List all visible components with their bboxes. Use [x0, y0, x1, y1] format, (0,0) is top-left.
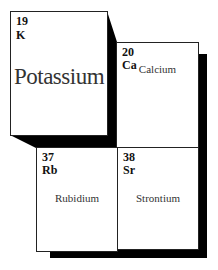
element-cell-strontium[interactable]: 38 Sr Strontium	[117, 147, 199, 250]
right-column-shadow	[198, 54, 207, 258]
element-cell-rubidium[interactable]: 37 Rb Rubidium	[36, 147, 118, 252]
element-symbol: Sr	[123, 164, 135, 177]
element-name: Calcium	[117, 63, 198, 75]
element-name: Potassium	[11, 64, 107, 90]
element-cell-calcium[interactable]: 20 Ca Calcium	[116, 42, 199, 149]
element-name: Strontium	[118, 192, 198, 204]
element-symbol: Rb	[42, 164, 57, 177]
element-name: Rubidium	[37, 192, 117, 204]
atomic-number: 19	[16, 15, 28, 28]
element-cell-potassium[interactable]: 19 K Potassium	[10, 11, 108, 136]
element-symbol: K	[16, 29, 25, 42]
